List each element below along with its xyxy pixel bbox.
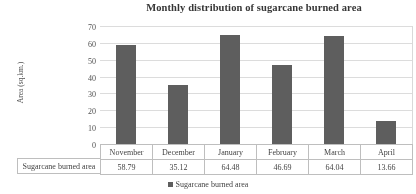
table-value-cell: 46.69 (257, 160, 309, 175)
y-axis-tick-label: 60 (88, 39, 96, 48)
bar (272, 65, 293, 144)
bar (324, 36, 345, 144)
table-value-cell: 35.12 (153, 160, 205, 175)
plot-area: 010203040506070 (100, 26, 413, 144)
bar (116, 45, 137, 144)
table-header-row: NovemberDecemberJanuaryFebruaryMarchApri… (101, 145, 413, 160)
legend-swatch-icon (168, 182, 173, 187)
table-header-cell: April (361, 145, 413, 160)
table-header-cell: November (101, 145, 153, 160)
chart-title: Monthly distribution of sugarcane burned… (95, 2, 413, 13)
table-value-cell: 64.04 (309, 160, 361, 175)
y-axis-tick-label: 20 (88, 107, 96, 116)
bar-column (360, 26, 412, 144)
bar-column (256, 26, 308, 144)
table-header-cell: February (257, 145, 309, 160)
legend: Sugarcane burned area (0, 180, 416, 189)
y-axis-tick-label: 40 (88, 73, 96, 82)
table-header-cell: March (309, 145, 361, 160)
plot-frame: 010203040506070 (100, 26, 413, 144)
y-axis-tick-label: 30 (88, 90, 96, 99)
table-value-cell: 13.66 (361, 160, 413, 175)
table-value-cell: 64.48 (205, 160, 257, 175)
table-header-cell: December (153, 145, 205, 160)
bar-series (100, 26, 412, 144)
bar (220, 35, 241, 144)
y-axis-title: Area (sq.km.) (16, 41, 25, 125)
table-value-cell: 58.79 (101, 160, 153, 175)
table-header-cell: January (205, 145, 257, 160)
data-table: NovemberDecemberJanuaryFebruaryMarchApri… (100, 144, 413, 175)
legend-label: Sugarcane burned area (176, 180, 249, 189)
bar (168, 85, 189, 144)
bar-column (204, 26, 256, 144)
y-axis-tick-label: 0 (92, 141, 96, 150)
bar (376, 121, 397, 144)
table-row-header: Sugarcane burned area (17, 158, 100, 174)
table-row: 58.7935.1264.4846.6964.0413.66 (101, 160, 413, 175)
bar-column (152, 26, 204, 144)
bar-column (100, 26, 152, 144)
y-axis-tick-label: 50 (88, 56, 96, 65)
bar-column (308, 26, 360, 144)
y-axis-tick-label: 10 (88, 124, 96, 133)
chart-figure: Monthly distribution of sugarcane burned… (0, 0, 416, 194)
y-axis-tick-label: 70 (88, 23, 96, 32)
